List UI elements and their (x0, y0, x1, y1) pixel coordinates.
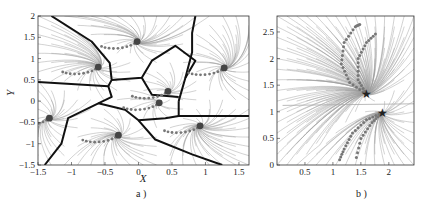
svg-text:1: 1 (270, 107, 275, 117)
trajectory-point (365, 41, 368, 44)
trajectory-point (341, 66, 344, 69)
trajectory-point (359, 137, 362, 140)
chart-panel-b: 0.511.5200.511.522.5★★ (252, 0, 425, 210)
svg-text:2: 2 (387, 167, 392, 177)
svg-text:1.5: 1.5 (233, 167, 245, 177)
streamline-plot-a: −1.5−1−0.500.511.5−1.5−1−0.500.511.52XY (0, 0, 252, 210)
attractor-point (95, 64, 102, 71)
trajectory-point (343, 70, 346, 73)
trajectory-point (348, 81, 351, 84)
svg-text:−0.5: −0.5 (19, 117, 36, 127)
svg-text:2: 2 (270, 54, 275, 64)
trajectory-point (371, 116, 374, 119)
attractor-point (46, 115, 53, 122)
trajectory-point (345, 38, 348, 41)
trajectory-point (357, 146, 360, 149)
trajectory-point (344, 144, 347, 147)
trajectory-point (354, 129, 357, 132)
trajectory-point (357, 66, 360, 69)
svg-text:1: 1 (203, 167, 208, 177)
attractor-point (221, 65, 228, 72)
trajectory-point (349, 135, 352, 138)
svg-text:−1: −1 (25, 139, 35, 149)
trajectory-point (358, 23, 361, 26)
svg-text:−0.5: −0.5 (97, 167, 114, 177)
trajectory-point (367, 39, 370, 42)
svg-text:0.5: 0.5 (24, 75, 36, 85)
svg-text:1: 1 (31, 54, 36, 64)
svg-text:X: X (139, 172, 148, 184)
trajectory-point (347, 77, 350, 80)
svg-text:2.5: 2.5 (263, 27, 275, 37)
caption-b: b ) (356, 188, 367, 199)
trajectory-point (352, 28, 355, 31)
trajectory-point (374, 33, 377, 36)
trajectory-point (341, 54, 344, 57)
attractor-point (197, 122, 204, 129)
trajectory-point (351, 132, 354, 135)
attractor-point (115, 132, 122, 139)
trajectory-point (348, 138, 351, 141)
chart-panel-a: −1.5−1−0.500.511.5−1.5−1−0.500.511.52XY (0, 0, 252, 210)
trajectory-point (347, 35, 350, 38)
trajectory-point (346, 141, 349, 144)
svg-text:0: 0 (270, 160, 275, 170)
trajectory-point (339, 156, 342, 159)
svg-text:1.5: 1.5 (355, 167, 367, 177)
trajectory-point (341, 150, 344, 153)
trajectory-point (364, 131, 367, 134)
svg-text:Y: Y (4, 88, 16, 96)
trajectory-point (360, 51, 363, 54)
target-star-icon: ★ (377, 106, 388, 120)
trajectory-point (366, 127, 369, 130)
trajectory-point (358, 54, 361, 57)
trajectory-point (357, 57, 360, 60)
trajectory-point (340, 62, 343, 65)
trajectory-point (357, 74, 360, 77)
trajectory-point (340, 153, 343, 156)
trajectory-point (340, 58, 343, 61)
trajectory-point (342, 45, 345, 48)
trajectory-point (345, 74, 348, 77)
trajectory-point (362, 134, 365, 137)
trajectory-point (365, 118, 368, 121)
caption-a: a ) (136, 188, 146, 199)
region-boundary (98, 103, 249, 120)
attractor-point (134, 38, 141, 45)
trajectory-point (372, 35, 375, 38)
svg-text:0.5: 0.5 (263, 133, 275, 143)
trajectory-point (362, 121, 365, 124)
trajectory-point (349, 32, 352, 35)
trajectory-point (355, 156, 358, 159)
streamline-plot-b: 0.511.5200.511.522.5★★ (252, 0, 425, 210)
svg-text:2: 2 (31, 11, 36, 21)
trajectory-point (357, 78, 360, 81)
trajectory-point (356, 151, 359, 154)
trajectory-point (371, 121, 374, 124)
trajectory-point (358, 81, 361, 84)
trajectory-point (368, 124, 371, 127)
region-boundary (45, 86, 112, 165)
svg-text:1.5: 1.5 (263, 80, 275, 90)
trajectory-point (343, 148, 346, 151)
trajectory-point (368, 117, 371, 120)
trajectory-point (359, 124, 362, 127)
trajectory-point (343, 41, 346, 44)
trajectory-point (357, 126, 360, 129)
trajectory-point (357, 61, 360, 64)
attractor-point (156, 99, 163, 106)
svg-text:0: 0 (31, 96, 36, 106)
trajectory-point (358, 142, 361, 145)
target-star-icon: ★ (361, 87, 372, 101)
attractor-point (165, 88, 172, 95)
svg-text:1: 1 (331, 167, 336, 177)
svg-text:0.5: 0.5 (166, 167, 178, 177)
svg-text:0.5: 0.5 (299, 167, 311, 177)
svg-text:−1.5: −1.5 (19, 160, 36, 170)
trajectory-point (362, 47, 365, 50)
trajectory-point (352, 83, 355, 86)
svg-text:1.5: 1.5 (24, 32, 36, 42)
trajectory-point (355, 86, 358, 89)
trajectory-point (341, 50, 344, 53)
svg-text:−1: −1 (67, 167, 77, 177)
